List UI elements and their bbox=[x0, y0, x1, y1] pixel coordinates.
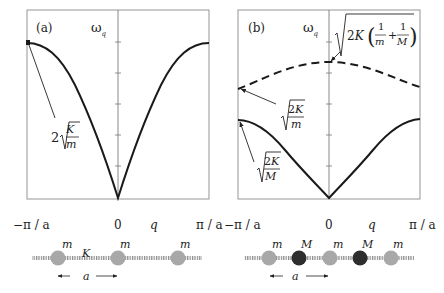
spring-constant-label: K bbox=[81, 247, 91, 260]
panel-b-annotation-optical-min: 2K m bbox=[241, 89, 305, 131]
svg-text:m: m bbox=[180, 238, 190, 251]
panel-a-annotation-leader bbox=[29, 45, 55, 118]
panel-b: (b) ωq 2K ( 1 m + 1 M ) 2K m bbox=[224, 10, 436, 283]
mass-m bbox=[51, 251, 66, 266]
panel-a: (a) ωq 2 K m −π / a 0 q π / a m m m K bbox=[13, 10, 223, 283]
panel-a-monatomic-chain: m m m K a bbox=[32, 238, 202, 283]
svg-text:2K: 2K bbox=[288, 103, 304, 116]
svg-text:2K: 2K bbox=[264, 155, 280, 168]
mass-m bbox=[171, 251, 186, 266]
panel-b-annotation-optical-max: 2K ( 1 m + 1 M ) bbox=[331, 14, 418, 61]
spacing-label: a bbox=[292, 270, 299, 283]
panel-b-x-tick-labels: −π / a 0 q π / a bbox=[224, 218, 436, 232]
svg-text:): ) bbox=[409, 24, 418, 49]
panel-a-y-axis-label: ωq bbox=[91, 20, 107, 38]
svg-text:q: q bbox=[150, 218, 158, 232]
panel-b-label: (b) bbox=[248, 21, 265, 35]
panel-b-y-axis-label: ωq bbox=[303, 20, 319, 38]
panel-a-x-tick-labels: −π / a 0 q π / a bbox=[13, 218, 223, 232]
svg-text:π / a: π / a bbox=[409, 218, 436, 232]
svg-text:M: M bbox=[300, 238, 313, 251]
mass-m bbox=[262, 251, 277, 266]
svg-text:M: M bbox=[396, 36, 408, 47]
svg-text:m: m bbox=[333, 238, 343, 251]
mass-M bbox=[292, 251, 307, 266]
svg-text:m: m bbox=[66, 138, 76, 151]
svg-text:K: K bbox=[65, 123, 75, 136]
svg-text:m: m bbox=[291, 118, 301, 131]
panel-b-annotation-acoustic-max: 2K M bbox=[240, 122, 281, 183]
panel-a-label: (a) bbox=[36, 21, 53, 35]
panel-a-annotation-2sqrtKm: 2 K m bbox=[51, 122, 80, 151]
svg-text:q: q bbox=[368, 218, 376, 232]
svg-text:m: m bbox=[393, 238, 403, 251]
svg-text:0: 0 bbox=[114, 218, 122, 232]
svg-text:M: M bbox=[264, 170, 277, 183]
svg-text:2: 2 bbox=[51, 130, 59, 145]
svg-text:m: m bbox=[62, 238, 72, 251]
panel-b-diatomic-chain: m M m M m a bbox=[244, 238, 414, 283]
svg-text:2K: 2K bbox=[347, 29, 365, 43]
svg-text:0: 0 bbox=[325, 218, 333, 232]
mass-M bbox=[353, 251, 368, 266]
mass-m bbox=[384, 251, 399, 266]
mass-m bbox=[111, 251, 126, 266]
svg-text:−π / a: −π / a bbox=[13, 218, 50, 232]
svg-text:M: M bbox=[361, 238, 374, 251]
svg-text:1: 1 bbox=[400, 21, 406, 32]
svg-text:m: m bbox=[120, 238, 130, 251]
spacing-label: a bbox=[83, 270, 90, 283]
svg-text:+: + bbox=[388, 29, 397, 42]
svg-text:1: 1 bbox=[378, 21, 384, 32]
figure-canvas: (a) ωq 2 K m −π / a 0 q π / a m m m K bbox=[0, 0, 444, 293]
svg-text:m: m bbox=[272, 238, 282, 251]
mass-m bbox=[323, 251, 338, 266]
svg-text:−π / a: −π / a bbox=[224, 218, 261, 232]
panel-a-max-marker bbox=[26, 40, 30, 45]
svg-text:m: m bbox=[375, 36, 384, 47]
svg-text:π / a: π / a bbox=[196, 218, 223, 232]
